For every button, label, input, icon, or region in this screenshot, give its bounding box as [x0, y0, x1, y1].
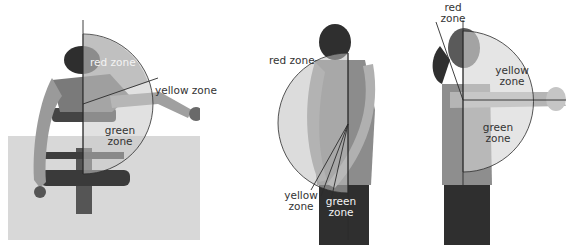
red-zone-label: red zone [269, 55, 315, 66]
hands [546, 87, 566, 111]
zone-half-disc [463, 31, 534, 172]
green-zone-label-line2: zone [321, 207, 361, 218]
green-zone-label: green zone [321, 196, 361, 218]
red-zone-label: red zone [90, 57, 136, 68]
yellow-zone-label: yellow zone [155, 85, 217, 96]
red-zone-label: red zone [438, 2, 468, 24]
yellow-zone-label: yellow zone [490, 65, 534, 87]
red-zone-label-line2: zone [438, 13, 468, 24]
legs [444, 185, 490, 245]
right-dumbbell [189, 107, 200, 121]
green-zone-label-line2: zone [98, 136, 142, 147]
panel-standing-shoulder-extension: red zone yellow zone green zone [255, 0, 385, 249]
left-dumbbell [34, 186, 46, 198]
green-zone-label-line2: zone [476, 133, 520, 144]
green-zone-label: green zone [98, 125, 142, 147]
yellow-zone-label-line2: zone [490, 76, 534, 87]
green-zone-label: green zone [476, 122, 520, 144]
ponytail [433, 46, 450, 84]
yellow-zone-label-line2: zone [281, 201, 321, 212]
panel-standing-front-raise: red zone yellow zone green zone [420, 0, 569, 249]
panel-prone-lateral-raise: red zone yellow zone green zone [0, 0, 200, 249]
yellow-zone-label: yellow zone [281, 190, 321, 212]
